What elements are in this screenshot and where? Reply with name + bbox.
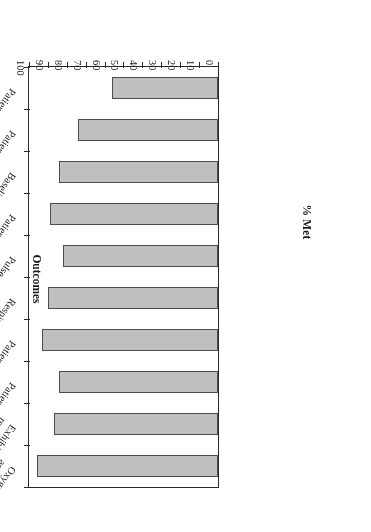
category-label-line: Patient verbalizes discharge instruction… [0, 87, 18, 231]
rotated-figure-container: % Met Outcomes 0102030405060708090100 Ox… [0, 0, 371, 532]
bar-chart-figure: % Met Outcomes 0102030405060708090100 Ox… [0, 0, 371, 532]
category-label: Oxygenationassessment [0, 458, 18, 516]
category-axis-labels: OxygenationassessmentExhibits decreasedr… [0, 0, 371, 532]
category-label: Patient verbalizes discharge instruction… [0, 86, 18, 231]
category-label-line: Oxygenation [0, 465, 18, 516]
